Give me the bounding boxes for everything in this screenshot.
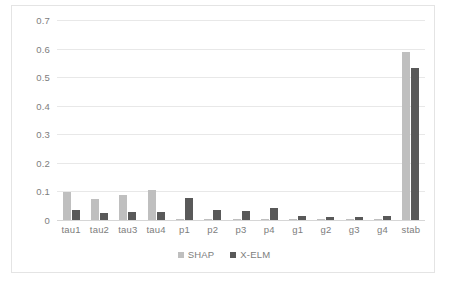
x-axis-label-g3: g3 [340,224,368,235]
bar-group [142,20,170,220]
x-axis-label-g1: g1 [284,224,312,235]
bar-group [340,20,368,220]
bar-xelm-g4 [383,216,391,220]
bar-group [227,20,255,220]
bar-xelm-tau4 [157,212,165,220]
bar-xelm-p2 [213,210,221,220]
legend-item-xelm: X-ELM [230,249,270,260]
y-axis-tick-label: 0.6 [36,43,50,54]
bar-shap-p4 [261,219,269,220]
bar-shap-p1 [176,219,184,220]
bar-xelm-p3 [242,211,250,220]
bar-shap-g1 [289,219,297,220]
y-axis-tick-label: 0.7 [36,15,50,26]
bar-xelm-p4 [270,208,278,220]
bar-xelm-p1 [185,198,193,220]
bar-group [114,20,142,220]
x-axis-label-p3: p3 [227,224,255,235]
x-axis-label-tau1: tau1 [57,224,85,235]
y-axis-tick-label: 0.2 [36,157,50,168]
bar-xelm-tau2 [100,213,108,220]
bar-series-group [57,20,425,220]
y-axis-tick-label: 0.1 [36,186,50,197]
bar-shap-p2 [204,219,212,220]
bar-group [284,20,312,220]
bar-group [57,20,85,220]
x-axis-labels: tau1tau2tau3tau4p1p2p3p4g1g2g3g4stab [57,224,425,235]
bar-xelm-g3 [355,217,363,220]
legend-swatch-shap-icon [178,252,184,258]
bar-shap-g4 [374,219,382,220]
x-axis-label-p2: p2 [199,224,227,235]
bar-shap-p3 [233,219,241,220]
bar-xelm-stab [411,68,419,220]
chart-container: 0.70.60.50.40.30.20.10 tau1tau2tau3tau4p… [11,5,435,273]
bar-group [255,20,283,220]
y-axis-tick-label: 0.4 [36,100,50,111]
x-axis-label-tau3: tau3 [114,224,142,235]
x-axis-label-tau4: tau4 [142,224,170,235]
bar-group [368,20,396,220]
legend-swatch-xelm-icon [230,252,236,258]
x-axis-label-stab: stab [397,224,425,235]
chart-legend: SHAP X-ELM [12,249,436,260]
bar-shap-tau3 [119,195,127,220]
bar-xelm-tau1 [72,210,80,220]
x-axis-label-p1: p1 [170,224,198,235]
bar-group [170,20,198,220]
bar-shap-tau4 [148,190,156,220]
x-axis-label-g2: g2 [312,224,340,235]
bar-xelm-g2 [326,217,334,220]
bar-group [199,20,227,220]
bar-xelm-g1 [298,216,306,220]
bar-shap-g3 [346,219,354,220]
x-axis-label-tau2: tau2 [85,224,113,235]
x-axis-label-p4: p4 [255,224,283,235]
x-axis-label-g4: g4 [368,224,396,235]
bar-shap-tau2 [91,199,99,220]
legend-label-shap: SHAP [188,249,215,260]
gridline: 0 [57,220,425,221]
bar-shap-stab [402,52,410,220]
bar-xelm-tau3 [128,212,136,220]
y-axis-tick-label: 0 [45,215,50,226]
legend-item-shap: SHAP [178,249,215,260]
y-axis-tick-label: 0.3 [36,129,50,140]
plot-area: 0.70.60.50.40.30.20.10 [57,20,425,220]
bar-group [85,20,113,220]
y-axis-tick-label: 0.5 [36,72,50,83]
legend-label-xelm: X-ELM [240,249,270,260]
bar-group [397,20,425,220]
bar-shap-tau1 [63,192,71,220]
bar-shap-g2 [317,219,325,220]
bar-group [312,20,340,220]
